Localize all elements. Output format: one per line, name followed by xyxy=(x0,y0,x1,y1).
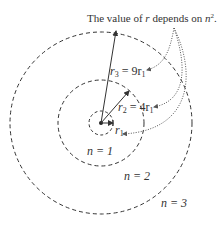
dotted-arrow-r2 xyxy=(154,28,182,107)
caption: The value of r depends on n2. xyxy=(87,12,217,24)
label-n3: n = 3 xyxy=(161,196,187,210)
label-r3: r3 = 9r1 xyxy=(110,64,145,79)
label-n2: n = 2 xyxy=(124,169,150,183)
label-r2: r2 = 4r1 xyxy=(118,100,153,115)
label-r1: r1 xyxy=(115,123,124,138)
dotted-arrow-r1 xyxy=(123,28,186,134)
bohr-orbit-diagram: The value of r depends on n2. r3 = 9r1 r… xyxy=(0,0,220,227)
label-n1: n = 1 xyxy=(87,144,113,158)
